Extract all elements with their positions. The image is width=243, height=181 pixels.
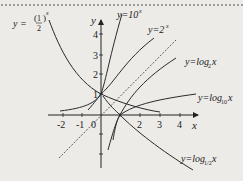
svg-text:y =: y =	[12, 18, 27, 29]
svg-text:2: 2	[93, 69, 98, 80]
svg-text:y=log: y=log	[197, 92, 222, 103]
svg-text:1: 1	[37, 14, 41, 23]
label-ten-pow-x: y=10 x	[116, 8, 142, 20]
svg-text:x: x	[138, 8, 142, 14]
svg-text:x: x	[211, 153, 217, 164]
svg-text:3: 3	[93, 50, 98, 61]
svg-text:x: x	[45, 10, 49, 16]
svg-text:y=log: y=log	[180, 153, 205, 164]
svg-text:1/2: 1/2	[204, 160, 212, 166]
svg-text:y=log: y=log	[184, 56, 209, 67]
svg-text:2: 2	[208, 63, 211, 69]
label-half-pow-x: y = ( 1 2 ) x	[12, 10, 49, 33]
svg-text:4: 4	[177, 119, 182, 130]
curve-log2	[108, 58, 176, 150]
function-graph: -2 -1 0 2 3 4 x 1 2 3 4 y y = ( 1 2 ) x …	[0, 0, 243, 181]
svg-text:x: x	[165, 23, 169, 29]
svg-text:2: 2	[37, 24, 41, 33]
x-tick-labels: -2 -1 0 2 3 4 x	[57, 119, 197, 131]
svg-text:3: 3	[157, 119, 162, 130]
svg-text:x: x	[191, 119, 197, 131]
label-log-half: y=log 1/2 x	[180, 153, 217, 166]
svg-text:-1: -1	[76, 119, 84, 130]
svg-text:x: x	[227, 92, 233, 103]
svg-text:y: y	[90, 14, 96, 26]
svg-text:x: x	[211, 56, 217, 67]
svg-text:10: 10	[221, 99, 227, 105]
svg-text:-2: -2	[57, 119, 65, 130]
label-two-pow-x: y=2 x	[147, 23, 169, 35]
curve-log-half	[103, 96, 193, 170]
label-log2: y=log 2 x	[184, 56, 217, 69]
svg-text:2: 2	[137, 119, 142, 130]
curve-y-eq-x	[59, 40, 176, 158]
svg-text:y=10: y=10	[116, 9, 138, 20]
axes	[48, 20, 198, 168]
svg-text:4: 4	[93, 29, 98, 40]
label-log10: y=log 10 x	[197, 92, 233, 105]
curve-log10	[113, 94, 196, 140]
svg-text:y=2: y=2	[147, 24, 164, 35]
